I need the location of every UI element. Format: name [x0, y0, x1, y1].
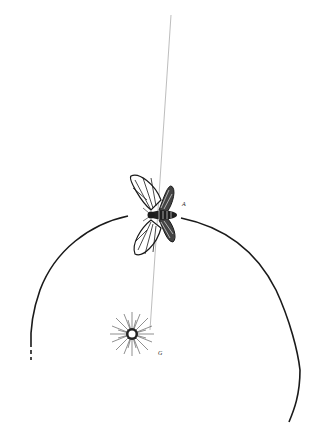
light-source-icon [110, 312, 154, 356]
light-label: G [158, 350, 162, 356]
illustration: A G [0, 0, 318, 437]
moth-icon [131, 175, 177, 254]
guide-line [150, 15, 171, 330]
flight-path-left [31, 216, 128, 347]
moth-label: A [182, 201, 186, 207]
flight-path-right [181, 218, 300, 422]
